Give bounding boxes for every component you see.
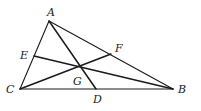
side-AB xyxy=(49,21,173,89)
label-F: F xyxy=(114,42,123,55)
geometry-diagram: A E F G C D B xyxy=(0,0,201,111)
segment-BE xyxy=(34,56,173,89)
label-D: D xyxy=(92,93,102,106)
label-E: E xyxy=(19,49,28,62)
label-G: G xyxy=(73,75,82,88)
label-A: A xyxy=(46,6,55,19)
label-C: C xyxy=(6,83,15,96)
label-B: B xyxy=(177,83,186,96)
